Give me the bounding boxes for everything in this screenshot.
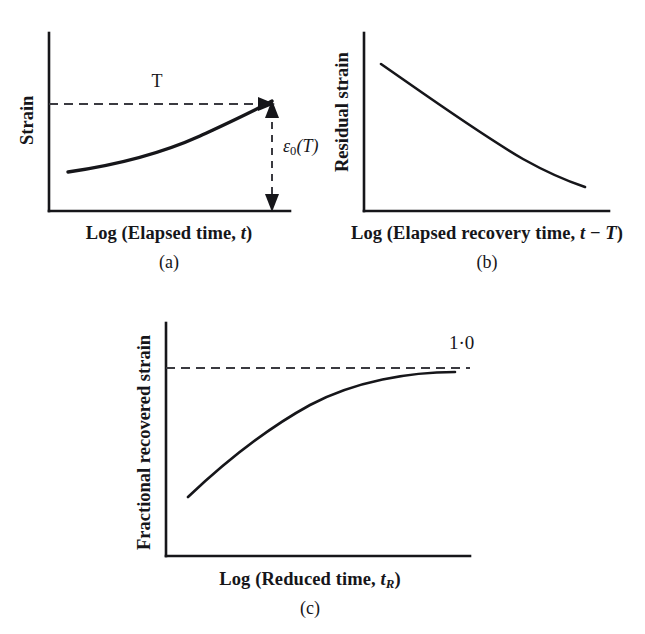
- panel-b-x-label-operator: −: [585, 223, 605, 243]
- panel-b-caption: (b): [477, 252, 498, 273]
- panel-c-recovery-curve: [188, 372, 455, 497]
- panel-c-x-label-suffix: ): [394, 569, 400, 590]
- panel-a-x-label-prefix: Log (Elapsed time,: [86, 223, 241, 244]
- panel-c-x-label-subscript: R: [385, 576, 395, 591]
- panel-c-caption: (c): [300, 598, 320, 619]
- panel-a-y-axis-label: Strain: [17, 95, 37, 145]
- panel-c-x-axis-label: Log (Reduced time, tR): [219, 569, 400, 591]
- panel-c-unity-label: 1·0: [449, 332, 474, 353]
- panel-a-x-label-suffix: ): [246, 223, 252, 244]
- panel-c-y-axis-label: Fractional recovered strain: [134, 334, 154, 550]
- panel-b-y-axis-label: Residual strain: [332, 52, 352, 172]
- panel-a-x-axis-label: Log (Elapsed time, t): [86, 223, 253, 244]
- panel-a-creep-curve: [68, 101, 272, 172]
- panel-b-x-label-suffix: ): [617, 223, 623, 244]
- panel-b-x-label-var2: T: [605, 223, 617, 243]
- panel-b-x-axis-label: Log (Elapsed recovery time, t − T): [351, 223, 623, 244]
- panel-c-x-label-prefix: Log (Reduced time,: [219, 569, 380, 590]
- panel-c: 1·0 Fractional recovered strain Log (Red…: [134, 323, 474, 619]
- panel-a-strain-magnitude-label: ε0(T): [283, 136, 318, 158]
- panel-b-residual-curve: [381, 64, 585, 187]
- panel-a-t-label: T: [152, 71, 163, 91]
- panel-b: Residual strain Log (Elapsed recovery ti…: [332, 33, 623, 273]
- panel-b-x-label-prefix: Log (Elapsed recovery time,: [351, 223, 580, 244]
- panel-a-caption: (a): [159, 252, 179, 273]
- panel-a-strain-down-arrowhead: [265, 194, 279, 212]
- three-panel-figure: T ε0(T) Strain Log (Elapsed time, t) (a)…: [0, 0, 645, 634]
- figure-root: T ε0(T) Strain Log (Elapsed time, t) (a)…: [0, 0, 645, 634]
- panel-a: T ε0(T) Strain Log (Elapsed time, t) (a): [17, 33, 318, 273]
- panel-a-epsilon-argument: (T): [296, 136, 318, 157]
